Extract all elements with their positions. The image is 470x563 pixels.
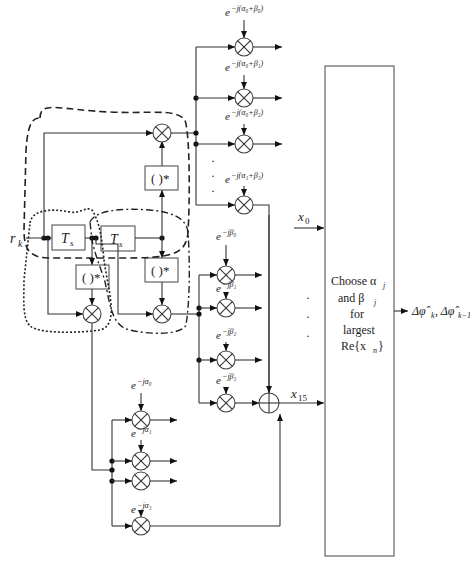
- alpha2-phasor-overlay: [0, 0, 470, 563]
